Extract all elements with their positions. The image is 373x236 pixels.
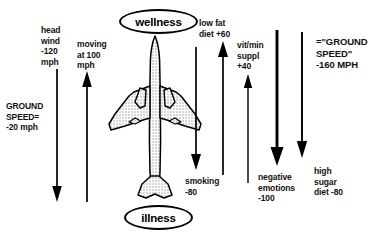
low-fat-diet-arrow — [218, 41, 228, 175]
wellness-node: wellness — [119, 9, 198, 34]
moving-at-100-label: moving at 100 mph — [77, 39, 107, 71]
ground-speed-right-label: ="GROUND SPEED" -160 MPH — [316, 36, 367, 71]
negative-emotions-arrow — [271, 30, 284, 166]
airplane-top-view-icon — [109, 36, 201, 198]
vitamin-mineral-supplement-label: vit/min suppl +40 — [237, 40, 264, 72]
moving-at-100-arrow — [82, 71, 92, 202]
smoking-label: smoking -80 — [185, 176, 219, 197]
wellness-label: wellness — [135, 16, 181, 28]
ground-speed-left-label: GROUND SPEED= -20 mph — [6, 101, 43, 133]
diagram-canvas: wellness illness head wind -120 mph GROU… — [0, 0, 373, 236]
illness-label: illness — [141, 212, 175, 224]
high-sugar-diet-label: high sugar diet -80 — [314, 166, 343, 198]
negative-emotions-label: negative emotions -100 — [258, 172, 295, 204]
low-fat-diet-label: low fat diet +60 — [199, 18, 230, 39]
illness-node: illness — [124, 205, 193, 230]
vitamin-mineral-supplement-arrow — [244, 74, 252, 183]
head-wind-arrow — [52, 69, 62, 202]
high-sugar-diet-arrow — [297, 32, 307, 158]
smoking-arrow — [191, 47, 201, 170]
head-wind-label: head wind -120 mph — [41, 25, 60, 67]
